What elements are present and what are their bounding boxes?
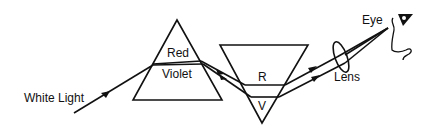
lens-label: Lens <box>334 70 360 84</box>
v-label: V <box>258 99 266 113</box>
r-label: R <box>258 70 267 84</box>
red-label: Red <box>167 46 189 60</box>
rays-to-eye <box>337 28 388 63</box>
prism-diagram: White Light Red Violet R V Lens Eye <box>0 0 439 132</box>
prism-1 <box>133 20 222 100</box>
white-light-label: White Light <box>24 91 85 105</box>
arrow-icon <box>101 91 110 98</box>
diagram-canvas: White Light Red Violet R V Lens Eye <box>0 0 439 132</box>
eye-label: Eye <box>362 13 383 27</box>
dispersed-rays <box>201 61 251 97</box>
violet-label: Violet <box>162 67 192 81</box>
white-light-ray <box>74 65 153 113</box>
eye-icon <box>398 14 413 26</box>
face-profile-icon <box>392 18 411 60</box>
